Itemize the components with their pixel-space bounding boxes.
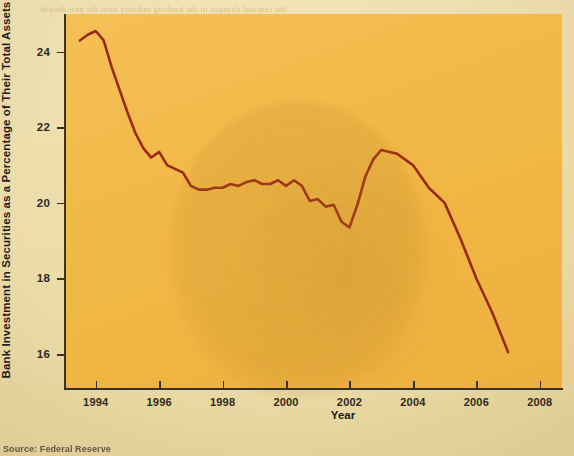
source-note: Source: Federal Reserve [3,444,111,454]
x-tick-2004 [413,381,415,388]
x-tick-label-2004: 2004 [400,396,425,408]
x-tick-1996 [159,381,161,388]
y-tick-18 [57,278,64,280]
x-axis-line [64,388,563,390]
x-tick-label-2006: 2006 [464,396,489,408]
x-tick-label-1996: 1996 [147,396,172,408]
x-tick-1998 [223,381,225,388]
y-tick-label-16: 16 [18,348,50,360]
x-tick-label-1994: 1994 [83,396,108,408]
x-tick-2006 [476,381,478,388]
plot-panel [64,14,562,388]
y-tick-20 [57,203,64,205]
x-tick-label-2008: 2008 [527,396,552,408]
y-tick-label-24: 24 [18,46,50,58]
y-tick-label-20: 20 [18,197,50,209]
x-tick-label-1998: 1998 [210,396,235,408]
y-axis-title-text: Bank Investment in Securities as a Perce… [0,2,12,379]
x-axis-title-text: Year [331,409,355,421]
y-tick-22 [57,127,64,129]
y-axis-title: Bank Investment in Securities as a Perce… [0,0,15,380]
x-tick-2008 [540,381,542,388]
x-tick-2002 [349,381,351,388]
y-axis-line [64,14,66,388]
x-tick-label-2002: 2002 [337,396,362,408]
paper-shadow-blob-inner [244,154,454,394]
y-tick-label-22: 22 [18,121,50,133]
x-tick-1994 [96,381,98,388]
y-tick-16 [57,354,64,356]
y-tick-label-18: 18 [18,272,50,284]
y-tick-24 [57,52,64,54]
x-axis-title: Year [0,409,574,421]
x-tick-label-2000: 2000 [273,396,298,408]
x-tick-2000 [286,381,288,388]
